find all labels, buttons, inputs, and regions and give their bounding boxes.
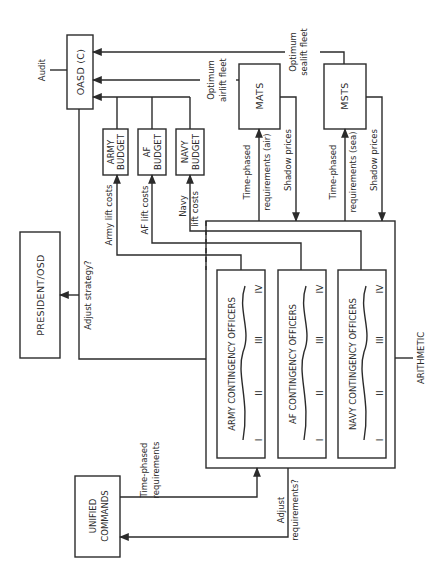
president-node: PRESIDENT/OSD xyxy=(20,232,60,358)
audit-label: Audit xyxy=(37,58,47,81)
roman-ii: II xyxy=(375,390,385,395)
roman-iv: IV xyxy=(315,284,325,294)
navy-lift-costs-1: Navy xyxy=(178,195,188,217)
budget-to-oasd-arrow xyxy=(93,97,190,129)
unified-line1: UNIFIED xyxy=(88,498,98,533)
army-co-label: ARMY CONTINGENCY OFFICERS xyxy=(227,297,237,431)
roman-ii: II xyxy=(254,390,264,395)
time-phased-sea-1: Time-phased xyxy=(328,145,338,201)
navy-budget-node: NAVY BUDGET xyxy=(176,129,204,175)
msts-node: MSTS xyxy=(324,64,366,129)
af-co-node: AF CONTINGENCY OFFICERS I II III IV xyxy=(278,270,326,458)
roman-ii: II xyxy=(315,390,325,395)
airlift-label-2: airlift fleet xyxy=(218,57,228,101)
uc-time-phased-1: Time-phased xyxy=(139,443,149,499)
army-budget-node: ARMY BUDGET xyxy=(103,129,128,175)
navy-co-node: NAVY CONTINGENCY OFFICERS I II III IV xyxy=(338,270,386,458)
mats-node: MATS xyxy=(239,64,280,129)
shadow-prices-air-label: Shadow prices xyxy=(283,129,293,191)
roman-i: I xyxy=(254,439,264,442)
time-phased-air-2: requirements (air) xyxy=(262,133,272,210)
army-lift-costs-label: Army lift costs xyxy=(104,184,114,245)
roman-iii: III xyxy=(375,336,385,344)
af-budget-node: AF BUDGET xyxy=(138,129,166,175)
unified-line2: COMMANDS xyxy=(100,490,110,541)
af-lift-costs-label: AF lift costs xyxy=(140,185,150,235)
flow-diagram: OASD (C) Audit ARMY BUDGET AF BUDGET NAV… xyxy=(0,0,438,579)
sealift-label-2: sealift fleet xyxy=(299,28,309,76)
adjust-requirements-1: Adjust xyxy=(276,496,286,523)
army-budget-line1: ARMY xyxy=(106,139,116,164)
roman-iii: III xyxy=(254,336,264,344)
army-budget-line2: BUDGET xyxy=(116,133,126,170)
roman-iv: IV xyxy=(254,284,264,294)
navy-budget-line2: BUDGET xyxy=(191,133,201,170)
navy-budget-line1: NAVY xyxy=(180,140,190,163)
adjust-requirements-2: requirements? xyxy=(290,479,300,540)
oasd-label: OASD (C) xyxy=(75,49,86,96)
president-label: PRESIDENT/OSD xyxy=(35,254,46,335)
uc-time-phased-2: requirements xyxy=(151,441,161,498)
oasd-node: OASD (C) xyxy=(67,35,93,109)
roman-iii: III xyxy=(315,336,325,344)
sealift-label-1: Optimum xyxy=(288,32,298,72)
af-budget-line2: BUDGET xyxy=(153,133,163,170)
arithmetic-label: ARITHMETIC xyxy=(416,332,426,384)
airlift-label-1: Optimum xyxy=(206,60,216,100)
navy-lift-costs-2: lift costs xyxy=(190,191,200,227)
time-phased-sea-2: requirements (sea) xyxy=(348,131,358,212)
mats-label: MATS xyxy=(254,83,265,110)
roman-iv: IV xyxy=(375,284,385,294)
roman-i: I xyxy=(315,439,325,442)
af-budget-line1: AF xyxy=(142,147,152,158)
time-phased-air-1: Time-phased xyxy=(242,145,252,201)
navy-co-label: NAVY CONTINGENCY OFFICERS xyxy=(348,298,358,430)
sealift-line-right xyxy=(320,52,344,64)
roman-i: I xyxy=(375,439,385,442)
shadow-prices-sea-label: Shadow prices xyxy=(369,129,379,191)
adjust-strategy-label: Adjust strategy? xyxy=(83,260,93,329)
unified-commands-node: UNIFIED COMMANDS xyxy=(75,476,120,557)
army-co-node: ARMY CONTINGENCY OFFICERS I II III IV xyxy=(217,270,265,458)
af-co-label: AF CONTINGENCY OFFICERS xyxy=(288,304,298,424)
msts-label: MSTS xyxy=(339,82,350,109)
